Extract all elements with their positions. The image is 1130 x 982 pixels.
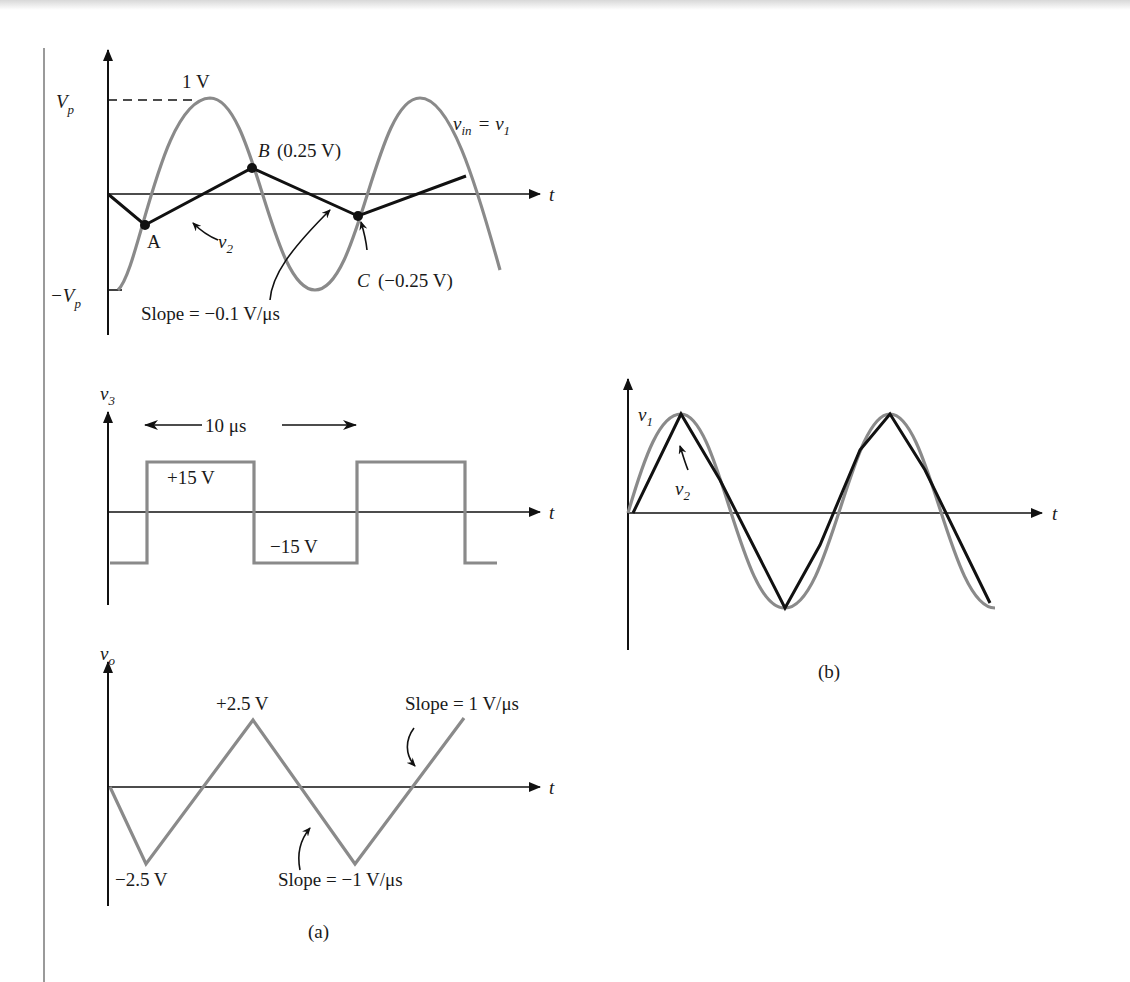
slope-pos-pointer-arrow-icon: [407, 728, 415, 766]
slope-label: Slope = −0.1 V/μs: [141, 303, 280, 324]
t-axis-label: t: [549, 502, 555, 523]
panel-a-caption: (a): [308, 921, 329, 943]
panel-3-triangle-output: vo +2.5 V −2.5 V Slope = 1 V/μs Slope = …: [100, 643, 555, 943]
v2-label: v2: [675, 478, 690, 503]
point-c-label: C: [357, 270, 370, 291]
t-axis-label: t: [549, 184, 555, 205]
v2-trace: [108, 168, 466, 225]
v2-pointer-arrow-icon: [193, 223, 218, 240]
slope-pos-label: Slope = 1 V/μs: [405, 693, 519, 714]
point-a-marker: [140, 220, 150, 230]
point-b-marker: [247, 163, 257, 173]
v3-axis-label: v3: [100, 383, 115, 408]
point-a-label: A: [147, 231, 161, 252]
v1-sine-trace: [628, 414, 995, 608]
trough-label: −2.5 V: [115, 869, 168, 890]
period-label: 10 μs: [205, 415, 246, 436]
t-axis-label: t: [1052, 503, 1058, 524]
v1-label: v1: [638, 404, 653, 429]
point-b-value: (0.25 V): [277, 140, 341, 162]
panel-1-input-and-v2: 1 V Vp −Vp t vin= v1 A B (0.25 V) C (−0.…: [50, 50, 555, 335]
panel-b-caption: (b): [818, 661, 840, 683]
panel-2-square-wave: v3 10 μs +15 V −15 V t: [100, 383, 555, 605]
v2-label: v2: [218, 231, 233, 256]
vin-label: vin= v1: [453, 113, 510, 138]
slope-neg-label: Slope = −1 V/μs: [278, 869, 403, 890]
peak-label: 1 V: [182, 71, 210, 92]
point-b-label: B: [258, 140, 270, 161]
t-axis-label: t: [549, 777, 555, 798]
point-c-marker: [353, 211, 363, 221]
vo-axis-label: vo: [100, 643, 115, 668]
vp-label: Vp: [56, 91, 75, 117]
v2-approx-trace: [633, 414, 990, 608]
slope-neg-pointer-arrow-icon: [299, 828, 310, 870]
point-c-pointer-arrow-icon: [361, 222, 367, 250]
neg-vp-label: −Vp: [50, 285, 81, 311]
high-level-label: +15 V: [167, 467, 215, 488]
vo-triangle-trace: [110, 718, 464, 864]
low-level-label: −15 V: [270, 536, 318, 557]
waveform-figure: 1 V Vp −Vp t vin= v1 A B (0.25 V) C (−0.…: [0, 0, 1130, 982]
slope-pointer-arrow-icon: [270, 210, 330, 300]
peak-label: +2.5 V: [216, 693, 269, 714]
panel-b-comparison: v1 v2 t (b): [628, 379, 1058, 683]
v2-pointer-arrow-icon: [680, 446, 688, 470]
point-c-value: (−0.25 V): [378, 270, 453, 292]
